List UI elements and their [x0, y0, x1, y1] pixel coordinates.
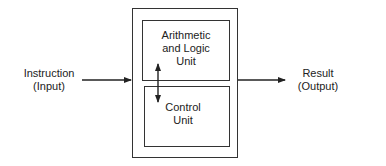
arrows-layer — [0, 0, 386, 166]
